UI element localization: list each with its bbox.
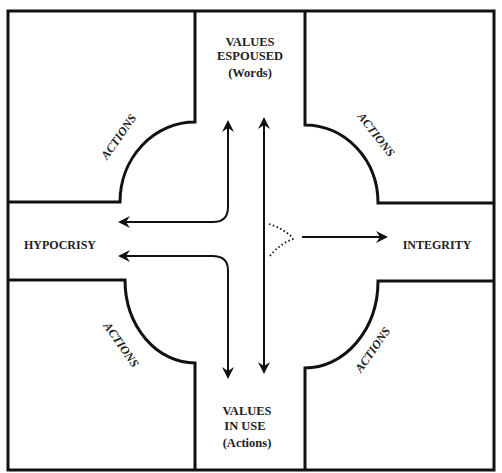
bottom-line1: VALUES: [222, 404, 271, 418]
actions-label-bottom-right: ACTIONS: [351, 324, 393, 376]
top-line1: VALUES: [225, 35, 274, 49]
integrity-label: INTEGRITY: [403, 238, 472, 252]
dotted-merge-upper: [269, 224, 292, 237]
top-line2: ESPOUSED: [217, 49, 283, 63]
bottom-line2: IN USE: [224, 419, 265, 433]
arrow-espoused-to-hypocrisy: [122, 122, 228, 222]
hypocrisy-label: HYPOCRISY: [24, 238, 96, 252]
values-crossroads-diagram: VALUES ESPOUSED (Words) VALUES IN USE (A…: [0, 0, 502, 473]
block-bottom-right: [305, 281, 494, 470]
top-label: VALUES ESPOUSED (Words): [217, 35, 283, 80]
top-line3: (Words): [228, 66, 272, 80]
block-top-right: [305, 11, 494, 203]
block-bottom-left: [8, 280, 195, 470]
bottom-label: VALUES IN USE (Actions): [222, 404, 271, 450]
block-top-left: [8, 11, 195, 202]
dotted-merge-lower: [270, 238, 296, 256]
bottom-line3: (Actions): [223, 436, 272, 450]
